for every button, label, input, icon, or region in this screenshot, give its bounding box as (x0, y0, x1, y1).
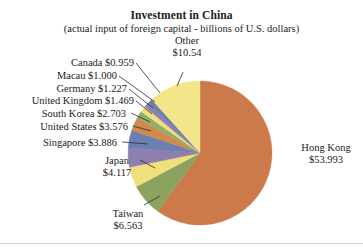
label-united-states: United States $3.576 (0, 121, 128, 133)
leader-canada (136, 63, 160, 93)
label-taiwan-value: $6.563 (103, 220, 153, 232)
label-taiwan-name: Taiwan (103, 208, 153, 220)
bottom-divider (0, 243, 363, 244)
label-united-kingdom: United Kingdom $1.469 (0, 95, 134, 107)
label-germany: Germany $1.227 (0, 83, 127, 95)
pie-slices (128, 81, 272, 225)
pie-chart-figure: Investment in China (actual input of for… (0, 0, 363, 247)
label-taiwan: Taiwan $6.563 (103, 208, 153, 232)
label-canada: Canada $0.959 (0, 57, 134, 69)
label-other-name: Other (152, 35, 222, 47)
label-japan-name: Japan (95, 155, 139, 167)
label-macau: Macau $1.000 (0, 70, 117, 82)
label-south-korea: South Korea $2.703 (0, 108, 126, 120)
label-hong-kong-value: $53.993 (291, 154, 361, 166)
label-other-value: $10.54 (152, 47, 222, 59)
label-hong-kong-name: Hong Kong (291, 142, 361, 154)
label-japan: Japan $4.117 (95, 155, 139, 179)
label-japan-value: $4.117 (95, 167, 139, 179)
label-other: Other $10.54 (152, 35, 222, 59)
label-singapore: Singapore $3.886 (0, 137, 117, 149)
label-hong-kong: Hong Kong $53.993 (291, 142, 361, 166)
